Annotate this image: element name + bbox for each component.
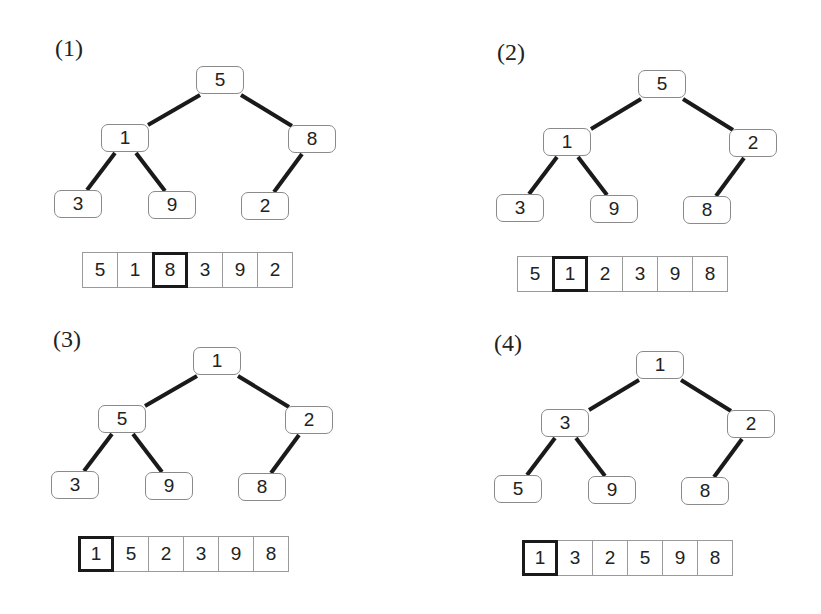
- tree-node-right: 2: [285, 406, 333, 434]
- array-cell: 3: [183, 536, 219, 572]
- heap-step-panel-3: (3) 1 5 2 3 9 8 1 5 2 3 9 8: [0, 281, 400, 581]
- tree-node-right: 2: [729, 129, 777, 157]
- tree-node-left: 3: [541, 409, 589, 437]
- tree-node-left: 1: [543, 128, 591, 156]
- array-cell: 5: [627, 540, 663, 576]
- array-cell: 9: [662, 540, 698, 576]
- heap-step-panel-4: (4) 1 3 2 5 9 8 1 3 2 5 9 8: [426, 285, 821, 585]
- tree-node-right-left: 8: [683, 196, 731, 224]
- tree-node-left: 5: [98, 405, 146, 433]
- tree-node-left-right: 9: [148, 191, 196, 219]
- tree-node-left-right: 9: [145, 472, 193, 500]
- array-cell: 2: [592, 540, 628, 576]
- array-cell-highlighted: 1: [552, 256, 588, 292]
- tree-node-left-right: 9: [590, 195, 638, 223]
- tree-node-right: 2: [727, 410, 775, 438]
- tree-node-root: 5: [196, 66, 244, 94]
- array-cell-highlighted: 1: [78, 536, 114, 572]
- tree-node-right: 8: [288, 125, 336, 153]
- heap-array: 1 5 2 3 9 8: [78, 536, 289, 572]
- heap-step-panel-2: (2) 5 1 2 3 9 8 5 1 2 3 9 8: [427, 4, 821, 304]
- tree-node-right-left: 8: [681, 477, 729, 505]
- tree-node-left-left: 3: [54, 190, 102, 218]
- array-cell: 9: [218, 536, 254, 572]
- heap-array: 1 3 2 5 9 8: [522, 540, 733, 576]
- tree-node-root: 1: [193, 347, 241, 375]
- tree-node-root: 5: [638, 70, 686, 98]
- tree-node-right-left: 2: [241, 192, 289, 220]
- tree-node-right-left: 8: [238, 473, 286, 501]
- heap-step-panel-1: (1) 5 1 8 3 9 2 5 1 8 3 9 2: [0, 0, 400, 300]
- array-cell: 3: [557, 540, 593, 576]
- tree-node-left-right: 9: [588, 476, 636, 504]
- array-cell: 5: [113, 536, 149, 572]
- array-cell-highlighted: 8: [152, 252, 188, 288]
- array-cell: 2: [148, 536, 184, 572]
- array-cell: 8: [697, 540, 733, 576]
- tree-node-root: 1: [636, 351, 684, 379]
- array-cell-highlighted: 1: [522, 540, 558, 576]
- tree-node-left-left: 3: [496, 194, 544, 222]
- tree-node-left-left: 3: [51, 471, 99, 499]
- array-cell: 8: [253, 536, 289, 572]
- tree-node-left-left: 5: [494, 475, 542, 503]
- tree-node-left: 1: [101, 124, 149, 152]
